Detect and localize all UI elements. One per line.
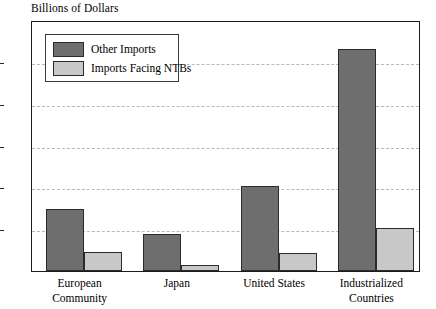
x-axis-category-labels: EuropeanCommunityJapanUnited StatesIndus… <box>31 276 420 308</box>
category-label-line: Community <box>31 291 128 306</box>
bar-other-imports <box>143 234 181 271</box>
y-axis-tick-mark <box>0 230 4 231</box>
category-label-line: European <box>31 276 128 291</box>
y-axis-tick-mark <box>0 188 4 189</box>
category-label-line: Industrialized <box>323 276 420 291</box>
legend-label: Other Imports <box>91 41 156 57</box>
bar-chart: Billions of Dollars 050100150200250300 E… <box>0 0 436 309</box>
legend-swatch <box>53 42 84 57</box>
bar-other-imports <box>241 186 279 271</box>
category-label-line: United States <box>226 276 323 291</box>
chart-title: Billions of Dollars <box>31 1 119 15</box>
category-label: EuropeanCommunity <box>31 276 128 305</box>
category-label-line: Countries <box>323 291 420 306</box>
legend-label: Imports Facing NTBs <box>91 60 191 76</box>
bar-other-imports <box>46 209 84 271</box>
bar-other-imports <box>338 49 376 271</box>
legend-swatch <box>53 61 84 76</box>
y-axis-tick-mark <box>0 63 4 64</box>
category-label: IndustrializedCountries <box>323 276 420 305</box>
y-axis-tick-mark <box>0 147 4 148</box>
bar-imports-facing-ntbs <box>376 228 414 272</box>
bar-imports-facing-ntbs <box>279 253 317 271</box>
chart-legend: Other ImportsImports Facing NTBs <box>45 34 179 82</box>
bar-imports-facing-ntbs <box>84 252 122 271</box>
bar-imports-facing-ntbs <box>181 265 219 271</box>
category-label-line: Japan <box>128 276 225 291</box>
category-label: United States <box>226 276 323 291</box>
y-axis-tick-mark <box>0 105 4 106</box>
category-label: Japan <box>128 276 225 291</box>
